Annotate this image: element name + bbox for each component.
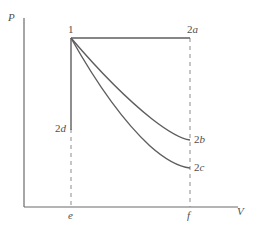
x-axis-title: V <box>237 206 244 217</box>
state-label-2c-suffix: c <box>200 161 205 173</box>
state-label-2b-suffix: b <box>200 133 206 145</box>
state-label-2a-suffix: a <box>193 23 199 35</box>
state-label-1-number: 1 <box>68 23 74 35</box>
state-label-1: 1 <box>68 24 74 35</box>
state-label-2a: 2a <box>187 24 198 35</box>
x-tick-label-f: f <box>187 210 190 221</box>
state-label-2c: 2c <box>194 162 205 173</box>
x-tick-label-e: e <box>68 210 73 221</box>
pv-diagram: P V e f 1 2a 2b 2c 2d <box>0 0 264 236</box>
state-label-2b: 2b <box>194 134 205 145</box>
state-label-2d: 2d <box>55 123 66 134</box>
state-label-2d-suffix: d <box>61 122 67 134</box>
pv-diagram-canvas <box>0 0 264 236</box>
y-axis-title: P <box>8 12 15 23</box>
